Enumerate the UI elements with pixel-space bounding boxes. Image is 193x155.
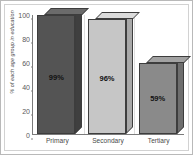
y-axis-tick-20: 20	[12, 108, 30, 115]
x-axis-category-labels: PrimarySecondaryTertiary	[32, 137, 184, 151]
y-axis-tick-0: 0	[12, 132, 30, 139]
vertical-gridline	[84, 15, 85, 134]
bar-side-face	[126, 12, 133, 134]
y-axis-tick-labels: 100806040200	[12, 15, 30, 135]
bar-tertiary[interactable]: 59%	[139, 63, 177, 134]
bar-data-label: 96%	[88, 74, 126, 83]
x-axis-label-primary: Primary	[32, 137, 83, 144]
vertical-gridline	[134, 15, 135, 134]
bar-secondary[interactable]: 96%	[88, 19, 126, 134]
bar-primary[interactable]: 99%	[37, 15, 75, 134]
bar-top-face	[44, 8, 89, 15]
plot-area: 99%96%59%	[32, 15, 184, 135]
bar-side-face	[75, 8, 82, 134]
bar-top-face	[95, 12, 140, 19]
y-axis-tick-60: 60	[12, 60, 30, 67]
chart-card: % of each age group in education 1008060…	[0, 0, 193, 155]
y-axis-tick-40: 40	[12, 84, 30, 91]
bar-side-face	[177, 56, 184, 134]
bar-top-face	[146, 56, 191, 63]
bar-data-label: 59%	[139, 94, 177, 103]
x-axis-label-secondary: Secondary	[83, 137, 134, 144]
y-axis-tick-80: 80	[12, 36, 30, 43]
x-axis-label-tertiary: Tertiary	[133, 137, 184, 144]
bar-data-label: 99%	[37, 73, 75, 82]
y-axis-tick-100: 100	[12, 12, 30, 19]
